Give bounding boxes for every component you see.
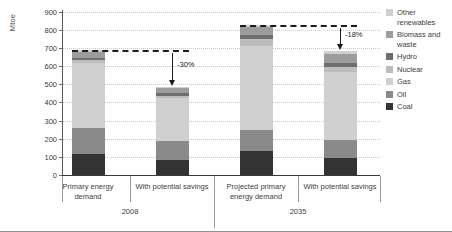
legend-label: Hydro [397, 52, 452, 62]
percent-change-label: -30% [177, 60, 195, 69]
y-axis-title: Mtoe [8, 0, 17, 51]
y-tick-label: 400 [31, 98, 57, 107]
percent-change-label: -18% [345, 30, 363, 39]
y-tick-label: 500 [31, 80, 57, 89]
bar-segment [72, 63, 105, 128]
bar-segment [240, 46, 273, 130]
annotation-arrow-head [337, 44, 343, 50]
legend-label: Coal [397, 102, 452, 112]
bar-segment [324, 140, 357, 159]
bar-segment [240, 151, 273, 175]
y-tick-label: 0 [31, 171, 57, 180]
legend-swatch-icon [386, 66, 393, 73]
y-tick-label: 900 [31, 7, 57, 16]
category-separator [130, 176, 131, 202]
annotation-arrow-shaft [340, 28, 341, 45]
y-tick-label: 600 [31, 62, 57, 71]
bar-segment [324, 54, 357, 63]
legend-item[interactable]: Hydro [386, 52, 452, 62]
bar-stack [156, 12, 189, 176]
legend-label: Oil [397, 90, 452, 100]
bar-segment [156, 98, 189, 141]
bar-segment [72, 60, 105, 63]
bar-segment [72, 52, 105, 58]
y-axis-line [62, 10, 63, 176]
bar-segment [324, 51, 357, 54]
bar-segment [240, 39, 273, 46]
bar-segment [72, 128, 105, 153]
bar-segment [156, 93, 189, 95]
bar-segment [156, 160, 189, 175]
legend-item[interactable]: Other renewables [386, 8, 452, 27]
legend-item[interactable]: Nuclear [386, 65, 452, 75]
legend-swatch-icon [386, 31, 393, 38]
y-tick-label: 300 [31, 116, 57, 125]
y-tick-label: 800 [31, 25, 57, 34]
bar-segment [156, 87, 189, 88]
bar-segment [72, 154, 105, 175]
legend-item[interactable]: Coal [386, 102, 452, 112]
bar-segment [156, 88, 189, 93]
x-axis-line [62, 175, 380, 176]
legend-item[interactable]: Oil [386, 90, 452, 100]
annotation-arrow-head [169, 80, 175, 86]
bar-segment [240, 35, 273, 39]
bar-segment [156, 96, 189, 98]
legend-item[interactable]: Gas [386, 77, 452, 87]
bar-segment [324, 72, 357, 139]
legend-label: Gas [397, 77, 452, 87]
bar-segment [324, 67, 357, 73]
category-label: With potential savings [132, 182, 212, 192]
bar-segment [240, 130, 273, 152]
category-label: With potential savings [300, 182, 380, 192]
category-separator [380, 176, 381, 202]
bar-stack [72, 12, 105, 176]
annotation-arrow-shaft [172, 53, 173, 80]
legend-swatch-icon [386, 78, 393, 85]
category-separator [214, 176, 215, 228]
legend-label: Biomass and waste [397, 30, 452, 49]
y-tick-label: 100 [31, 152, 57, 161]
bar-segment [72, 58, 105, 61]
legend-swatch-icon [386, 103, 393, 110]
legend-swatch-icon [386, 9, 393, 16]
category-label: Projected primary energy demand [216, 182, 296, 201]
reference-line [72, 50, 189, 52]
bar-segment [240, 27, 273, 35]
legend-swatch-icon [386, 91, 393, 98]
category-label: Primary energy demand [48, 182, 128, 201]
category-separator [298, 176, 299, 202]
stacked-bar-chart: Mtoe 0100200300400500600700800900 -30%-1… [0, 0, 452, 232]
bottom-frame-line [0, 231, 452, 232]
bar-segment [156, 141, 189, 160]
group-label: 2035 [268, 207, 328, 216]
group-label: 2008 [100, 207, 160, 216]
legend: Other renewablesBiomass and wasteHydroNu… [386, 8, 452, 115]
legend-item[interactable]: Biomass and waste [386, 30, 452, 49]
reference-line [240, 25, 357, 27]
bar-segment [324, 158, 357, 175]
y-tick-label: 700 [31, 43, 57, 52]
bar-stack [240, 12, 273, 176]
legend-label: Nuclear [397, 65, 452, 75]
legend-label: Other renewables [397, 8, 452, 27]
legend-swatch-icon [386, 53, 393, 60]
bar-segment [324, 63, 357, 67]
y-tick-label: 200 [31, 134, 57, 143]
